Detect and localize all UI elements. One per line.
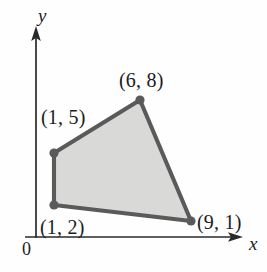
vertex-dot-1-5 xyxy=(49,148,58,157)
coordinate-figure: y x 0 (1, 5) (6, 8) (1, 2) (9, 1) xyxy=(0,0,267,272)
vertex-dot-6-8 xyxy=(135,95,144,104)
y-axis-label: y xyxy=(38,6,46,25)
point-label-1-2: (1, 2) xyxy=(40,217,85,237)
vertex-dot-9-1 xyxy=(186,216,195,225)
x-axis-label: x xyxy=(249,234,257,253)
vertex-dot-1-2 xyxy=(49,200,58,209)
point-label-6-8: (6, 8) xyxy=(119,70,164,90)
point-label-9-1: (9, 1) xyxy=(197,212,242,232)
point-label-1-5: (1, 5) xyxy=(41,107,86,127)
origin-label: 0 xyxy=(22,240,31,258)
